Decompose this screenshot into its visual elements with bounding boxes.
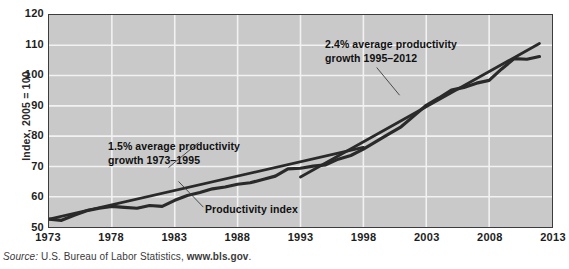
data-series-layer <box>49 43 539 220</box>
plot-area <box>48 14 553 228</box>
y-tick-100: 100 <box>4 68 44 80</box>
plot-canvas <box>49 15 552 227</box>
annotation-leader-lines <box>169 68 400 208</box>
series-line-0 <box>49 56 539 220</box>
fast-growth-annotation-line2: growth 1995–2012 <box>325 52 457 66</box>
source-prefix: Source: <box>3 251 38 262</box>
slow-growth-annotation-line1: 1.5% average productivity <box>108 140 240 154</box>
x-tick-1973: 1973 <box>18 231 78 243</box>
fast-growth-annotation: 2.4% average productivity growth 1995–20… <box>325 38 457 65</box>
x-tick-2013: 2013 <box>523 231 569 243</box>
productivity-index-chart: Index, 2005 = 100 5060708090100110120 19… <box>0 0 569 269</box>
y-tick-70: 70 <box>4 160 44 172</box>
x-tick-1993: 1993 <box>271 231 331 243</box>
x-tick-1978: 1978 <box>81 231 141 243</box>
x-tick-2003: 2003 <box>397 231 457 243</box>
x-tick-1998: 1998 <box>334 231 394 243</box>
series-label: Productivity index <box>205 203 298 217</box>
y-tick-120: 120 <box>4 7 44 19</box>
x-tick-2008: 2008 <box>460 231 520 243</box>
slow-growth-annotation-line2: growth 1973–1995 <box>108 154 240 168</box>
slow-growth-annotation: 1.5% average productivity growth 1973–19… <box>108 140 240 167</box>
y-tick-60: 60 <box>4 190 44 202</box>
source-url: www.bls.gov <box>187 251 249 262</box>
y-axis-tick-labels: 5060708090100110120 <box>0 0 44 269</box>
source-suffix: . <box>249 251 252 262</box>
fast-growth-leader <box>377 68 400 96</box>
y-tick-90: 90 <box>4 99 44 111</box>
y-tick-110: 110 <box>4 38 44 50</box>
fast-growth-annotation-line1: 2.4% average productivity <box>325 38 457 52</box>
x-tick-1983: 1983 <box>144 231 204 243</box>
source-agency: U.S. Bureau of Labor Statistics, <box>41 251 184 262</box>
source-line: Source: U.S. Bureau of Labor Statistics,… <box>3 251 251 262</box>
x-axis-tick-labels: 197319781983198819931998200320082013 <box>0 231 569 251</box>
x-tick-1988: 1988 <box>207 231 267 243</box>
y-tick-80: 80 <box>4 129 44 141</box>
